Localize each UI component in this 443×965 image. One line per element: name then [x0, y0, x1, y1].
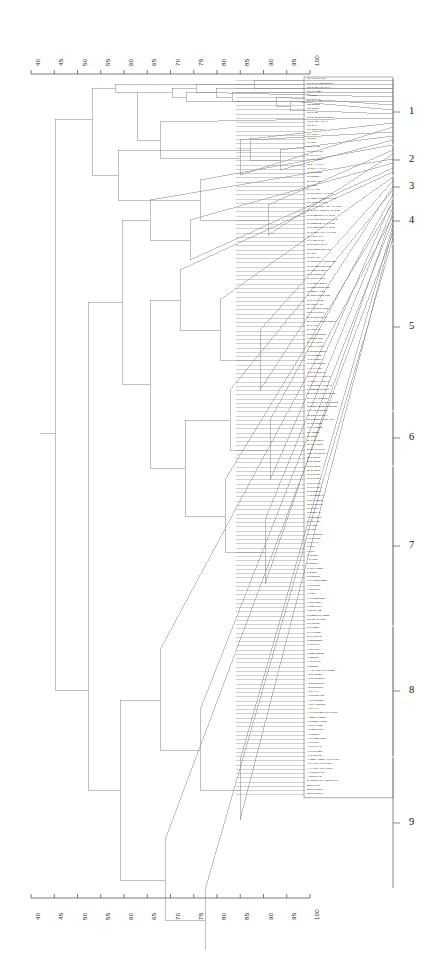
- leaf-label: S FLATHEAD: [307, 636, 322, 639]
- tree-branch: [190, 163, 393, 220]
- leaf-label: 96 NAVAJO: [307, 146, 320, 149]
- leaf-label: 36 SKULL VALLEY TOSUTE: [307, 402, 338, 405]
- cluster-number: 3: [409, 180, 414, 191]
- leaf-label: T NESPELEM: [307, 640, 322, 643]
- leaf-label: 35 DEEP CREEK TOSUTE: [307, 406, 337, 409]
- leaf-label: 9 ATSUGEWI: [307, 517, 322, 520]
- leaf-label: 82 W S CHIRICAHUA APACHE: [307, 206, 341, 209]
- leaf-label: AL BELLA COOLA: [307, 717, 327, 720]
- leaf-label: 83 LIPAN APACHE: [307, 202, 328, 205]
- leaf-label: N COEUR D'ALENE: [307, 615, 329, 618]
- axis-tick-label: 45: [57, 59, 64, 66]
- tree-branches: [40, 80, 393, 950]
- leaf-label: 72 CHEMEHUEVI S P: [307, 249, 331, 252]
- leaf-label: 2 YUKI: [307, 546, 315, 549]
- leaf-label: AR LUMMI: [307, 742, 319, 745]
- tree-branch: [265, 207, 393, 520]
- tree-branch: [190, 168, 393, 260]
- leaf-label: BC N TLINGIT: [307, 789, 323, 792]
- leaf-label: 40 SPRING VALLEY S: [307, 385, 332, 388]
- leaf-label: 25 OKANAGAN: [307, 449, 324, 452]
- axis-tick-label: 55: [104, 59, 111, 66]
- axis-tick-label: 60: [127, 913, 134, 920]
- cluster-number: 8: [409, 684, 414, 695]
- leaf-label: 106 SAN JUAN T: [307, 78, 326, 81]
- axis-tick-label: 70: [174, 913, 181, 920]
- axis-tick-label: 75: [197, 913, 204, 920]
- leaf-label: 99 HOPI: [307, 142, 316, 145]
- leaf-label: 23 S POMO: [307, 457, 320, 460]
- leaf-label: 60 S P PAIUTE: [307, 300, 324, 303]
- leaf-label: 29 ARBOR: [307, 432, 319, 435]
- leaf-label: 84 MESCALERO APACHE: [307, 198, 336, 201]
- cluster-number: 4: [409, 214, 414, 225]
- leaf-label: G TUTUTNI: [307, 585, 320, 588]
- leaf-label: AB CARRIER: [307, 674, 322, 677]
- leaf-label: 52 N DIEGUENO: [307, 334, 326, 337]
- axis-tick-label: 85: [243, 913, 250, 920]
- cluster-number: 5: [409, 320, 414, 331]
- leaf-label: 18 S MAIDU: [307, 478, 321, 481]
- leaf-label: 54 SALINA: [307, 325, 319, 328]
- leaf-label: AI CLAYOQUOT: [307, 704, 325, 707]
- axis-tick-label: 45: [57, 913, 64, 920]
- leaf-label: 88 MOHAVE: [307, 181, 321, 184]
- leaf-label: 11 WINTU: [307, 508, 318, 511]
- leaf-label: 37 W K P TOSUTE: [307, 398, 328, 401]
- leaf-label: 51 SERRANO: [307, 338, 322, 341]
- axis-tick-label: 80: [220, 913, 227, 920]
- leaf-label: J L THOMPSON: [307, 598, 325, 601]
- axis-tick-label: 40: [34, 59, 41, 66]
- leaf-label: 43 PANAMINT S: [307, 372, 325, 375]
- tree-branch: [165, 233, 393, 840]
- cluster-number: 6: [409, 431, 414, 442]
- leaf-label: I ALSEA: [307, 593, 316, 596]
- leaf-label: AZ GITKSAN: [307, 776, 322, 779]
- leaf-label: 27 W R WINTU: [307, 440, 324, 443]
- tree-branch: [205, 238, 393, 890]
- leaf-label: 110 TAOS: [307, 112, 318, 115]
- leaf-label: 103 SANTO DOMINGO K: [307, 117, 335, 120]
- leaf-label: 4 MATTOLE: [307, 538, 320, 541]
- leaf-label: 76 CHIRICAHUA APACHE: [307, 232, 336, 235]
- leaf-label: 97 ACOMA: [307, 134, 319, 137]
- tree-branch: [290, 101, 393, 110]
- leaf-label: 92 E Y YAVAPAI: [307, 164, 325, 167]
- leaf-label: 30 K P MONO: [307, 427, 323, 430]
- leaf-label: AW HAIDA KWAKIUTL: [307, 763, 332, 766]
- leaf-label: X TENINO: [307, 657, 318, 660]
- leaf-label: 22 E POMO: [307, 461, 320, 464]
- leaf-label: AQ W SENATOR: [307, 738, 326, 741]
- leaf-label: 1 HUPA: [307, 551, 316, 554]
- leaf-label: 79 WHITE MTN W APACHE: [307, 219, 338, 222]
- leaf-label: Y KLAMATH: [307, 661, 321, 664]
- tree-branch: [160, 118, 393, 122]
- leaf-label: 50 F CAHUILLA: [307, 342, 324, 345]
- leaf-label: 95 W NAVAJO: [307, 151, 323, 154]
- leaf-label: 104 PAPAGO: [307, 100, 322, 103]
- leaf-label: 77 N TONTO W APACHE: [307, 227, 335, 230]
- leaf-label: C TILLAMOOK: [307, 568, 323, 571]
- leaf-label: 55 KAIBAB SOUTHERN P: [307, 321, 336, 324]
- leaf-label: AX HAISLA KWAKIUTL: [307, 768, 333, 771]
- leaf-label: 78 CIBECUE W APACHE: [307, 223, 335, 226]
- leaf-label: 87 YUMA: [307, 185, 317, 188]
- leaf-label: 98 ZUNI: [307, 138, 316, 141]
- leaf-label: AF TAHAH: [307, 691, 319, 694]
- axis-tick-label: 65: [150, 913, 157, 920]
- leaf-label: 28 TUBI: [307, 436, 316, 439]
- leaf-label: AD POTSULOP: [307, 683, 324, 686]
- leaf-label: 91 N E Y YAVAPAI: [307, 168, 327, 171]
- leaf-label: AO SQUAMISH: [307, 729, 324, 732]
- axis-tick-label: 50: [81, 59, 88, 66]
- leaf-label: 69 UNCOMPAHGRE UTE: [307, 261, 335, 264]
- leaf-label: 62 UINTAH UTE: [307, 291, 325, 294]
- leaf-label: 94 WALAPAI: [307, 155, 321, 158]
- leaf-label: AJ MAKAH: [307, 708, 319, 711]
- leaf-label: Z MODOC: [307, 666, 319, 669]
- leaf-label: 75 KIOWA S P: [307, 236, 323, 239]
- leaf-label: Q KUTENAI: [307, 627, 320, 630]
- leaf-label: F GALICE CREEK: [307, 580, 327, 583]
- leaf-label: 31 S J MONO: [307, 423, 322, 426]
- leaf-label: P SANPOIL: [307, 623, 320, 626]
